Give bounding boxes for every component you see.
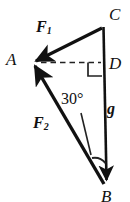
point-label-A: A — [6, 51, 16, 68]
point-label-B: B — [101, 188, 111, 202]
angle-label-30-degrees: 30° — [61, 91, 83, 107]
vector-label-g: g — [107, 101, 115, 117]
point-label-C: C — [109, 6, 120, 23]
vector-label-f1-subscript: 1 — [47, 25, 52, 36]
right-angle-marker-icon — [88, 63, 102, 77]
vector-label-f2-subscript: 2 — [44, 121, 49, 132]
angle-arc-icon — [92, 158, 106, 163]
vector-force-diagram: A C D B F1 F2 g 30° — [0, 0, 130, 202]
vector-label-f2: F2 — [33, 115, 49, 132]
point-label-D: D — [109, 55, 121, 72]
vector-label-f1-base: F — [36, 18, 47, 35]
vector-label-f2-base: F — [33, 114, 44, 131]
vector-label-f1: F1 — [36, 19, 52, 36]
